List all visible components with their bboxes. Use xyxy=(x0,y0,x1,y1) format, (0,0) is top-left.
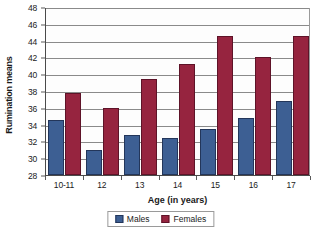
bar-females-13 xyxy=(141,79,157,175)
bar-males-15 xyxy=(200,129,216,175)
y-axis-tick-label: 48 xyxy=(28,3,37,13)
legend-swatch-males-icon xyxy=(115,215,123,223)
bars-layer xyxy=(46,8,310,175)
bar-group xyxy=(124,8,157,175)
y-axis-tick-label: 38 xyxy=(28,87,37,97)
x-axis-tick-mark xyxy=(310,176,311,180)
legend-label-males: Males xyxy=(127,214,150,224)
bar-group xyxy=(48,8,81,175)
chart-legend: Males Females xyxy=(107,211,214,227)
y-axis-tick-label: 34 xyxy=(28,121,37,131)
legend-swatch-females-icon xyxy=(162,215,170,223)
bar-females-17 xyxy=(293,36,309,175)
y-axis-tick-label: 44 xyxy=(28,37,37,47)
bar-males-10-11 xyxy=(48,120,64,175)
x-axis-tick-label: 12 xyxy=(97,180,106,190)
bar-group xyxy=(276,8,309,175)
bar-group xyxy=(200,8,233,175)
legend-label-females: Females xyxy=(174,214,207,224)
legend-item-females: Females xyxy=(162,214,207,224)
x-axis-tick-label: 17 xyxy=(287,180,296,190)
bar-females-10-11 xyxy=(65,93,81,175)
x-axis-title: Age (in years) xyxy=(45,195,310,205)
y-axis-tick-label: 28 xyxy=(28,171,37,181)
bar-group xyxy=(86,8,119,175)
y-axis-tick-label: 30 xyxy=(28,154,37,164)
bar-group xyxy=(162,8,195,175)
bar-females-16 xyxy=(255,57,271,175)
y-axis-title-label: Rumination means xyxy=(4,56,14,133)
bar-females-12 xyxy=(103,108,119,175)
bar-chart-figure: Rumination means 4846444240383634323028 … xyxy=(0,0,321,239)
x-axis-tick-label: 14 xyxy=(173,180,182,190)
x-axis-tick-label: 13 xyxy=(135,180,144,190)
y-axis-tick-label: 46 xyxy=(28,20,37,30)
legend-item-males: Males xyxy=(115,214,150,224)
bar-males-14 xyxy=(162,138,178,175)
bar-males-17 xyxy=(276,101,292,175)
y-axis-tick-label: 32 xyxy=(28,137,37,147)
bar-males-13 xyxy=(124,135,140,175)
bar-females-15 xyxy=(217,36,233,175)
y-axis-tick-label: 40 xyxy=(28,70,37,80)
plot-area xyxy=(45,8,310,176)
y-axis-tick-label: 42 xyxy=(28,53,37,63)
x-axis-tick-label: 15 xyxy=(211,180,220,190)
bar-males-12 xyxy=(86,150,102,175)
bar-group xyxy=(238,8,271,175)
x-axis-tick-labels: 10-11121314151617 xyxy=(45,180,310,194)
bar-males-16 xyxy=(238,118,254,175)
bar-females-14 xyxy=(179,64,195,175)
x-axis-tick-label: 16 xyxy=(249,180,258,190)
x-axis-tick-label: 10-11 xyxy=(54,180,74,190)
y-axis-tick-labels: 4846444240383634323028 xyxy=(18,8,40,176)
y-axis-tick-label: 36 xyxy=(28,104,37,114)
y-axis-title: Rumination means xyxy=(0,0,18,190)
